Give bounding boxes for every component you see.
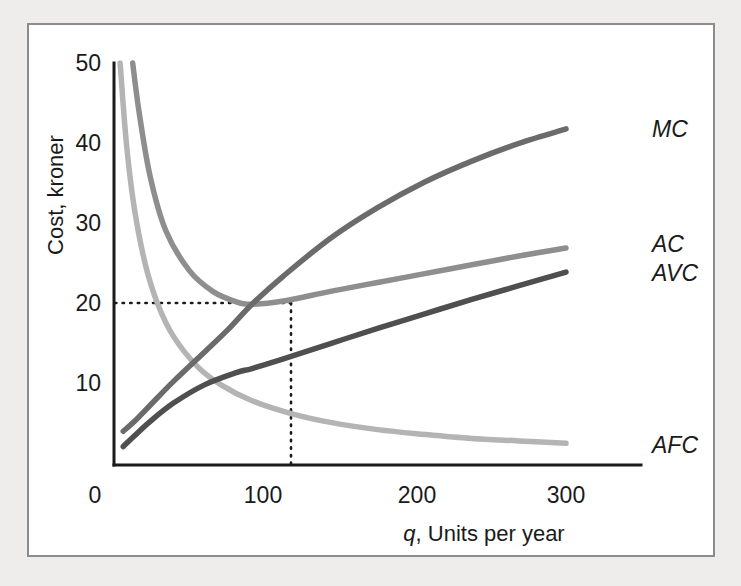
x-tick-label-0: 0 [89, 482, 102, 508]
figure-panel: 50 40 30 20 10 0 100 200 300 Cost, krone… [27, 23, 715, 557]
y-tick-label-50: 50 [75, 50, 101, 76]
x-axis-title: q, Units per year [403, 521, 564, 546]
x-axis-title-rest: , Units per year [416, 521, 565, 546]
x-axis-title-variable: q [403, 521, 416, 546]
y-tick-label-30: 30 [75, 210, 101, 236]
y-axis-title: Cost, kroner [43, 135, 68, 255]
y-tick-label-40: 40 [75, 130, 101, 156]
cost-curves-chart: 50 40 30 20 10 0 100 200 300 Cost, krone… [29, 25, 713, 555]
curve-label-afc: AFC [650, 432, 698, 458]
x-tick-label-200: 200 [398, 482, 436, 508]
curve-label-ac: AC [650, 231, 684, 257]
curve-afc [120, 63, 566, 443]
y-tick-label-20: 20 [75, 290, 101, 316]
curve-mc [123, 129, 566, 431]
curve-label-avc: AVC [650, 260, 698, 286]
x-tick-label-100: 100 [244, 482, 282, 508]
figure-root: 50 40 30 20 10 0 100 200 300 Cost, krone… [0, 0, 741, 586]
curve-ac [133, 63, 566, 304]
x-tick-label-300: 300 [547, 482, 585, 508]
curve-label-mc: MC [652, 116, 688, 142]
y-tick-label-10: 10 [75, 370, 101, 396]
